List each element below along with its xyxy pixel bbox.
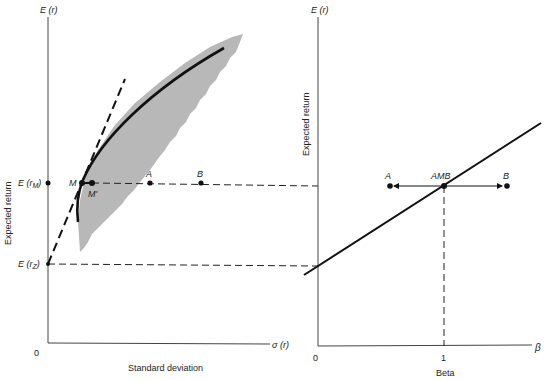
security-market-line [304, 123, 541, 275]
right-y-axis-top-label: E (r) [311, 5, 329, 15]
label-a-left: A [145, 169, 152, 179]
right-x-axis-title: Beta [436, 368, 455, 378]
tick-label-beta-one: 1 [441, 353, 446, 363]
left-y-axis-top-label: E (r) [40, 5, 58, 15]
left-y-axis-title: Expected return [3, 181, 13, 245]
tick-label-rm: E (rM) [18, 178, 41, 189]
tick-dot-rm [46, 181, 51, 186]
point-b-left [198, 180, 203, 185]
feasible-set-region [78, 34, 243, 252]
label-b-left: B [197, 169, 203, 179]
point-amb [441, 183, 447, 189]
right-y-axis-title: Expected return [301, 92, 311, 156]
right-panel: A AMB B E (r) Expected return 0 1 Beta β [301, 5, 541, 378]
point-m-prime [89, 180, 95, 186]
tick-label-rz: E (rZ) [18, 259, 40, 270]
zero-beta-return-dashed-line [48, 264, 318, 266]
right-origin-label: 0 [313, 353, 318, 363]
left-panel: E (r) M M' A B E (rM) E (rZ) Expected re… [3, 5, 318, 373]
point-b-right [504, 183, 510, 189]
left-x-axis-end-label: σ (r) [272, 340, 289, 350]
label-a-right: A [384, 171, 391, 181]
left-x-axis-title: Standard deviation [128, 363, 203, 373]
point-m [79, 180, 85, 186]
label-b-right: B [503, 171, 509, 181]
left-origin-label: 0 [34, 348, 39, 358]
tick-dot-rz [46, 262, 50, 266]
label-amb: AMB [430, 171, 451, 181]
point-a-left [147, 180, 152, 185]
label-m-prime: M' [88, 189, 97, 199]
right-x-axis-end-label: β [534, 342, 541, 353]
label-m: M [69, 178, 77, 188]
point-a-right [387, 183, 393, 189]
diagram-canvas: E (r) M M' A B E (rM) E (rZ) Expected re… [0, 0, 548, 380]
right-x-axis [318, 345, 532, 346]
left-x-axis [48, 343, 270, 344]
